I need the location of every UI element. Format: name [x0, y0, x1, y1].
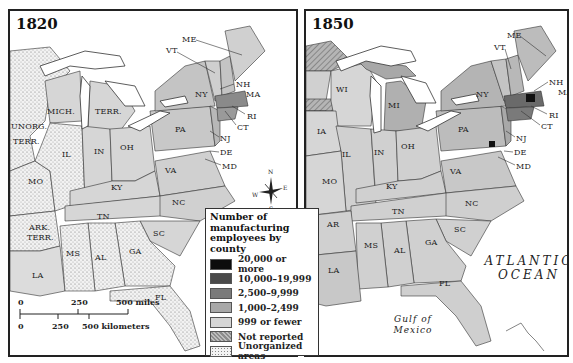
state-label: ME	[507, 31, 521, 40]
state-label: NY	[195, 90, 208, 99]
state-label: FL	[439, 279, 450, 288]
legend-swatch-1000-2499	[210, 302, 232, 313]
compass-e: E	[283, 184, 288, 191]
state-label: MO	[322, 177, 337, 186]
state-label: CT	[237, 123, 249, 132]
scale-km-0: 0	[18, 321, 24, 331]
state-label: UNORG.	[11, 122, 47, 131]
state-label: SC	[153, 229, 165, 238]
legend-item: 999 or fewer	[210, 315, 314, 330]
map-legend: Number of manufacturing employees by cou…	[205, 208, 319, 356]
state-label: NJ	[516, 134, 527, 143]
state-label: NY	[476, 90, 489, 99]
state-label: ARK.	[29, 223, 50, 232]
state-label: IN	[374, 148, 385, 157]
legend-item: Unorganized areas	[210, 344, 314, 359]
legend-item: 2,500–9,999	[210, 286, 314, 301]
state-label: SC	[454, 225, 466, 234]
state-label: TERR.	[27, 233, 54, 242]
state-label: GA	[425, 238, 438, 247]
state-label: PA	[458, 125, 469, 134]
state-label: NH	[549, 78, 563, 87]
state-label: MO	[28, 177, 43, 186]
atlantic-ocean-label: ATLANTIC OCEAN	[484, 254, 569, 282]
state-label: MD	[222, 162, 237, 171]
state-label: NJ	[220, 134, 231, 143]
map-year-title: 1850	[312, 15, 354, 33]
state-label: ME	[182, 35, 196, 44]
state-label: MA	[558, 88, 569, 97]
state-label: WI	[336, 85, 348, 94]
map-1850: 1850 ME VT NH MA WI MI NY RI CT IA PA NJ…	[304, 9, 569, 357]
state-label: NC	[172, 198, 186, 207]
state-label: MD	[516, 162, 531, 171]
state-label: OH	[401, 142, 415, 151]
state-label: RI	[549, 111, 559, 120]
state-label: GA	[129, 247, 142, 256]
state-label: MS	[364, 241, 378, 250]
state-label: LA	[32, 271, 44, 280]
state-label: TN	[392, 207, 405, 216]
state-label: OH	[120, 143, 134, 152]
state-label: LA	[328, 266, 340, 275]
state-label: KY	[386, 182, 397, 191]
compass-w: W	[252, 191, 258, 198]
state-label: DE	[514, 148, 527, 157]
legend-item: 10,000–19,999	[210, 272, 314, 287]
state-label: TERR.	[13, 137, 40, 146]
state-label: CT	[541, 122, 553, 131]
scale-miles-500: 500 miles	[116, 297, 160, 307]
state-label: VT	[166, 46, 178, 55]
state-label: VA	[450, 167, 461, 176]
legend-swatch-unorganized	[210, 346, 232, 357]
map-1850-geography	[306, 11, 569, 357]
state-label: TN	[97, 212, 110, 221]
legend-swatch-999-or-fewer	[210, 317, 232, 328]
legend-swatch-2500-9999	[210, 288, 232, 299]
scale-bar: 0 250 500 miles 0 250 500 kilometers	[16, 297, 166, 347]
state-label: MS	[66, 249, 80, 258]
state-label: VA	[165, 166, 176, 175]
state-label: IL	[62, 150, 71, 159]
legend-item: 1,000–2,499	[210, 301, 314, 316]
state-label: MA	[246, 90, 260, 99]
map-year-title: 1820	[16, 15, 58, 33]
legend-swatch-20000-plus	[210, 259, 232, 270]
state-label: AL	[95, 253, 107, 262]
state-label: PA	[175, 125, 186, 134]
compass-rose: N S E W	[254, 171, 288, 211]
legend-swatch-10000-19999	[210, 273, 232, 284]
state-label: DE	[220, 148, 233, 157]
scale-miles-0: 0	[18, 297, 24, 307]
state-label: RI	[247, 112, 257, 121]
state-label: IN	[94, 147, 105, 156]
state-label: IA	[317, 127, 326, 136]
gulf-of-mexico-label: Gulf of Mexico	[388, 314, 438, 336]
state-label: MI	[388, 101, 400, 110]
state-label: KY	[111, 183, 122, 192]
legend-title: Number of manufacturing employees by cou…	[210, 212, 314, 254]
state-label: NC	[465, 199, 479, 208]
legend-swatch-not-reported	[210, 331, 232, 342]
scale-miles-250: 250	[71, 297, 88, 307]
compass-n: N	[268, 168, 273, 175]
state-label: TERR.	[95, 107, 122, 116]
state-label: AL	[394, 246, 406, 255]
legend-item: 20,000 or more	[210, 257, 314, 272]
state-label: IL	[342, 150, 351, 159]
state-label: NH	[236, 80, 250, 89]
scale-km-250: 250	[52, 321, 69, 331]
state-label: MICH.	[47, 107, 75, 116]
state-label: AR	[327, 220, 339, 229]
scale-km-500: 500 kilometers	[82, 321, 150, 331]
state-label: VT	[494, 43, 506, 52]
